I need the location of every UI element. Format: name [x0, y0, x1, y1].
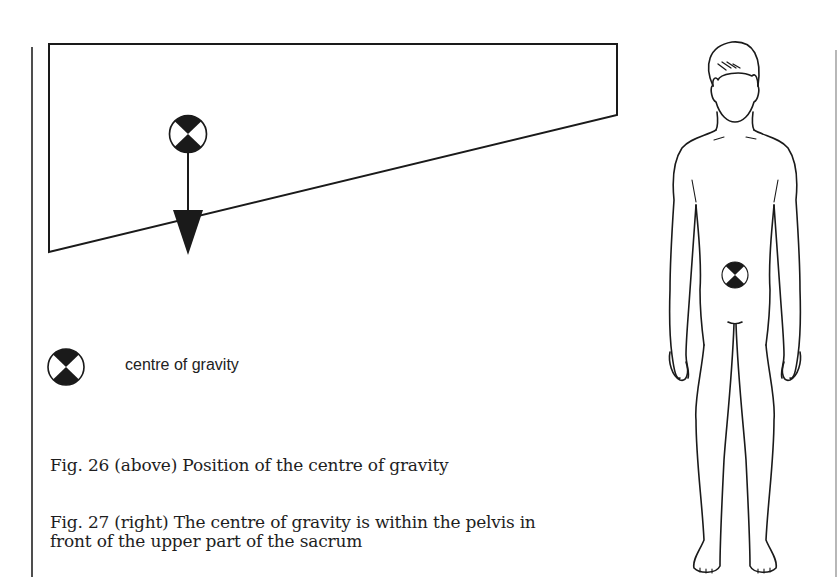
centre-of-gravity-icon	[170, 116, 207, 153]
legend-label: centre of gravity	[125, 356, 239, 374]
figure-27-caption-line-2: front of the upper part of the sacrum	[50, 532, 610, 551]
legend-centre-of-gravity-icon	[48, 349, 84, 385]
human-figure	[669, 42, 800, 573]
figure-26-caption: Fig. 26 (above) Position of the centre o…	[50, 456, 448, 475]
body-centre-of-gravity-icon	[722, 262, 748, 288]
trapezoid-block	[49, 44, 617, 252]
figure-27-caption: Fig. 27 (right) The centre of gravity is…	[50, 513, 610, 551]
figure-27-caption-line-1: Fig. 27 (right) The centre of gravity is…	[50, 513, 610, 532]
gravity-arrow-head	[173, 210, 203, 255]
diagram-canvas	[0, 0, 839, 577]
